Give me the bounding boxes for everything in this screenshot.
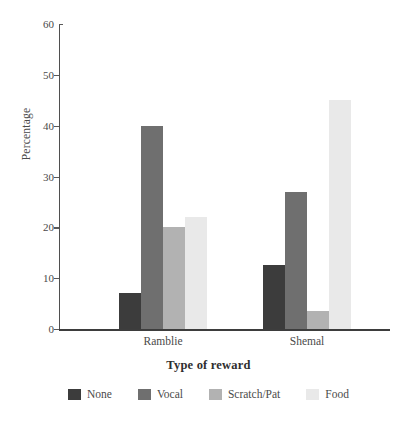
chart-legend: NoneVocalScratch/PatFood: [0, 388, 417, 400]
legend-swatch-icon: [138, 389, 151, 400]
legend-item-scratch-pat[interactable]: Scratch/Pat: [209, 388, 280, 400]
y-axis-title: Percentage: [20, 86, 32, 182]
y-tick-20: [54, 227, 59, 228]
bar-ramblie-none: [119, 293, 141, 329]
y-tick-10: [54, 278, 59, 279]
legend-item-none[interactable]: None: [68, 388, 112, 400]
y-axis-line: [59, 24, 60, 329]
legend-item-vocal[interactable]: Vocal: [138, 388, 183, 400]
y-tick-60: [59, 24, 63, 25]
legend-label: Scratch/Pat: [228, 388, 280, 400]
x-label-shemal: Shemal: [290, 335, 325, 347]
y-tick-label-50: 50: [43, 69, 54, 80]
bar-ramblie-vocal: [141, 126, 163, 329]
bar-chart: Percentage 0102030405060 RamblieShemal T…: [0, 0, 417, 425]
x-axis-title: Type of reward: [0, 358, 417, 373]
bar-shemal-vocal: [285, 192, 307, 329]
legend-swatch-icon: [209, 389, 222, 400]
bar-ramblie-food: [185, 217, 207, 329]
y-tick-30: [54, 177, 59, 178]
bar-ramblie-scratch-pat: [163, 227, 185, 329]
legend-swatch-icon: [306, 389, 319, 400]
y-tick-50: [54, 75, 59, 76]
y-tick-label-10: 10: [43, 273, 54, 284]
legend-swatch-icon: [68, 389, 81, 400]
legend-label: None: [87, 388, 112, 400]
legend-label: Vocal: [157, 388, 183, 400]
y-tick-0: [54, 329, 59, 330]
x-axis-line: [59, 329, 390, 331]
y-tick-40: [54, 126, 59, 127]
y-tick-label-20: 20: [43, 222, 54, 233]
y-tick-label-30: 30: [43, 171, 54, 182]
x-label-ramblie: Ramblie: [144, 335, 183, 347]
legend-item-food[interactable]: Food: [306, 388, 349, 400]
y-tick-label-40: 40: [43, 120, 54, 131]
bar-group-ramblie: [119, 24, 207, 329]
bar-group-shemal: [263, 24, 351, 329]
plot-area: 0102030405060 RamblieShemal: [59, 24, 390, 329]
bar-shemal-food: [329, 100, 351, 329]
y-tick-label-60: 60: [43, 19, 54, 30]
bar-shemal-none: [263, 265, 285, 329]
bar-shemal-scratch-pat: [307, 311, 329, 329]
y-tick-label-0: 0: [49, 324, 55, 335]
legend-label: Food: [325, 388, 349, 400]
